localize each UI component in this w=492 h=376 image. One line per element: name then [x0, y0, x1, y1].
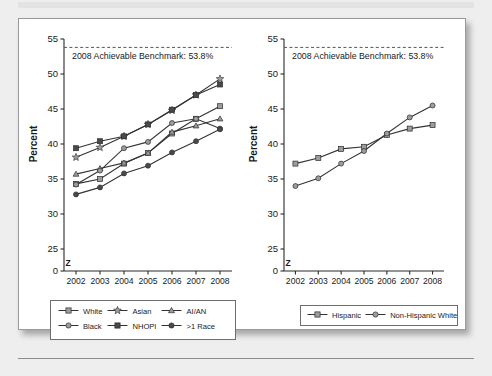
benchmark-label: 2008 Achievable Benchmark: 53.8% [72, 51, 214, 61]
data-point [146, 139, 151, 144]
x-tick-label: 2004 [332, 276, 351, 286]
legend-key-marker [169, 323, 174, 328]
data-point [316, 176, 321, 181]
data-point [194, 116, 199, 121]
legend-left: WhiteAsianAI/ANBlackNHOPI>1 Race [50, 300, 236, 340]
y-tick-label-zero: 0 [53, 265, 58, 276]
legend-key-black [55, 319, 81, 334]
page-background: 253035404550550ZPercent20022003200420052… [0, 0, 492, 376]
data-point [218, 104, 223, 109]
data-point [218, 82, 223, 87]
y-tick-label-zero: 0 [273, 265, 278, 276]
legend-left-table: WhiteAsianAI/ANBlackNHOPI>1 Race [55, 304, 217, 334]
legend-key-non-hispanic-white [363, 308, 388, 323]
y-tick-label: 30 [47, 208, 58, 219]
data-point [146, 122, 151, 127]
data-point [170, 107, 175, 112]
legend-key-triangle [161, 305, 182, 316]
y-tick-label: 35 [47, 173, 58, 184]
legend-key-square [107, 320, 128, 331]
legend-right-table: HispanicNon-Hispanic White [305, 308, 459, 323]
legend-key-white [55, 304, 81, 319]
legend-key-circle [161, 320, 182, 331]
data-point [362, 149, 367, 154]
bottom-rule [18, 358, 474, 359]
data-point [98, 177, 103, 182]
data-point [384, 131, 389, 136]
legend-right: HispanicNon-Hispanic White [300, 305, 458, 326]
legend-row: WhiteAsianAI/AN [55, 304, 217, 319]
data-point [98, 168, 103, 173]
legend-label-black: Black [81, 319, 104, 334]
x-tick-label: 2005 [138, 276, 157, 286]
chart-left: 253035404550550ZPercent20022003200420052… [28, 33, 232, 286]
legend-key-nhopi [104, 319, 130, 334]
y-tick-label: 55 [47, 33, 58, 44]
x-tick-label: 2004 [114, 276, 133, 286]
legend-key-square [58, 305, 79, 316]
data-point [194, 93, 199, 98]
legend-key-square [307, 309, 328, 320]
legend-marker [65, 308, 70, 313]
data-point [96, 144, 104, 151]
data-point [194, 139, 199, 144]
y-axis-label: Percent [28, 125, 39, 162]
legend-marker [315, 312, 320, 317]
legend-label-nhopi: NHOPI [130, 319, 158, 334]
figure-area: 253035404550550ZPercent20022003200420052… [19, 19, 465, 329]
data-point [430, 103, 435, 108]
data-point [98, 139, 103, 144]
legend-key-marker [315, 312, 320, 317]
legend-key-marker [115, 323, 120, 328]
x-tick-label: 2008 [423, 276, 442, 286]
x-tick-label: 2003 [90, 276, 109, 286]
top-strip [18, 2, 474, 8]
data-point [74, 146, 79, 151]
y-tick-label: 25 [267, 243, 278, 254]
x-tick-label: 2007 [400, 276, 419, 286]
data-point [72, 153, 80, 160]
legend-marker [373, 312, 378, 317]
data-point [217, 116, 223, 121]
legend-key--1-race [158, 319, 184, 334]
data-point [170, 150, 175, 155]
data-point [339, 161, 344, 166]
data-point [430, 123, 435, 128]
legend-key-marker [65, 323, 70, 328]
legend-key-ai-an [158, 304, 184, 319]
figure-panel: 253035404550550ZPercent20022003200420052… [18, 18, 466, 330]
series-markers-hispanic [293, 123, 435, 167]
y-tick-label: 45 [47, 103, 58, 114]
x-tick-label: 2007 [186, 276, 205, 286]
x-tick-label: 2005 [354, 276, 373, 286]
legend-row: HispanicNon-Hispanic White [305, 308, 459, 323]
x-tick-label: 2002 [286, 276, 305, 286]
data-point [74, 192, 79, 197]
legend-label-asian: Asian [130, 304, 158, 319]
legend-row: BlackNHOPI>1 Race [55, 319, 217, 334]
data-point [293, 184, 298, 189]
data-point [339, 146, 344, 151]
legend-label-ai-an: AI/AN [184, 304, 217, 319]
data-point [218, 127, 223, 132]
benchmark-label: 2008 Achievable Benchmark: 53.8% [292, 51, 434, 61]
x-tick-label: 2006 [377, 276, 396, 286]
data-point [98, 185, 103, 190]
x-tick-label: 2008 [210, 276, 229, 286]
data-point [407, 115, 412, 120]
legend-key-star [107, 305, 128, 316]
data-point [146, 163, 151, 168]
legend-key-marker [65, 308, 70, 313]
chart-right: 253035404550550ZPercent20022003200420052… [248, 33, 444, 286]
legend-marker [114, 306, 122, 313]
x-tick-label: 2003 [309, 276, 328, 286]
x-tick-label: 2002 [66, 276, 85, 286]
legend-label-non-hispanic-white: Non-Hispanic White [388, 308, 459, 323]
x-tick-label: 2006 [162, 276, 181, 286]
data-point [74, 182, 79, 187]
y-tick-label: 50 [267, 68, 278, 79]
data-point [122, 146, 127, 151]
data-point [122, 134, 127, 139]
data-point [170, 121, 175, 126]
y-tick-label: 35 [267, 173, 278, 184]
